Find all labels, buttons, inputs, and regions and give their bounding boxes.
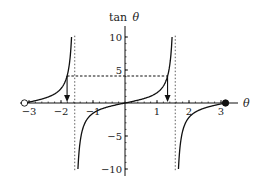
- y-tick-label: −10: [101, 164, 122, 175]
- x-tick-label: −1: [86, 106, 101, 117]
- arrow-down-icon: [165, 95, 171, 102]
- y-tick-label: −5: [107, 131, 122, 142]
- level-guides: [64, 76, 170, 102]
- x-tick-label: −2: [54, 106, 69, 117]
- y-axis-label: tan θ: [109, 11, 140, 24]
- x-tick-label: 3: [218, 106, 224, 117]
- plot-area: −3−2−1123 −10−5510 θ tan θ: [0, 0, 262, 188]
- y-tick-label: 5: [116, 65, 122, 76]
- arrow-down-icon: [64, 95, 70, 102]
- x-axis-label: θ: [243, 97, 250, 110]
- y-tick-label: 10: [109, 32, 122, 43]
- y-axis-label-fn: tan: [109, 11, 127, 24]
- x-tick-label: −3: [22, 106, 37, 117]
- x-tick-label: 1: [154, 106, 160, 117]
- tan-theta-chart: −3−2−1123 −10−5510 θ tan θ: [0, 0, 262, 188]
- y-axis-label-var: θ: [133, 11, 140, 24]
- tan-curve-branch: [24, 37, 71, 103]
- filled-endpoint-marker: [222, 100, 228, 106]
- open-endpoint-marker: [21, 100, 27, 106]
- axes: −3−2−1123 −10−5510: [20, 26, 238, 176]
